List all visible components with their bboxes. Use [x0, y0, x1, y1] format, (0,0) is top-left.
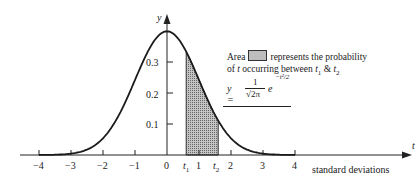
x-tick-label: 4: [292, 160, 297, 171]
t-axis-label: t: [412, 140, 415, 151]
x-tick-label: −1: [129, 160, 140, 171]
shaded-area-swatch-icon: [248, 50, 267, 61]
y-tick-0.3: 0.3: [146, 57, 159, 68]
x-axis-title: standard deviations: [312, 164, 389, 175]
y-axis: [164, 14, 174, 155]
y-axis-arrow-icon: [164, 14, 171, 24]
x-tick-label: −2: [97, 160, 108, 171]
legend: Arearepresents the probability of t occu…: [227, 50, 367, 79]
formula-underline: [223, 106, 291, 107]
shaded-probability-area: [186, 52, 218, 155]
x-tick-label: 0: [164, 160, 169, 171]
x-axis-arrow-icon: [402, 152, 412, 159]
y-axis-label: y: [157, 12, 161, 23]
x-tick-label: −4: [33, 160, 44, 171]
t2-label: t2: [213, 160, 219, 176]
x-tick-label: 1: [196, 160, 201, 171]
y-tick-0.2: 0.2: [146, 89, 159, 100]
normal-distribution-chart: [0, 0, 419, 183]
t1-label: t1: [183, 160, 189, 176]
x-tick-label: 2: [228, 160, 233, 171]
x-tick-label: 3: [260, 160, 265, 171]
x-tick-label: −3: [65, 160, 76, 171]
legend-line-2: of t occurring between t1 & t2: [227, 63, 367, 79]
y-tick-0.1: 0.1: [146, 119, 159, 130]
legend-line-1: Arearepresents the probability: [227, 50, 367, 63]
